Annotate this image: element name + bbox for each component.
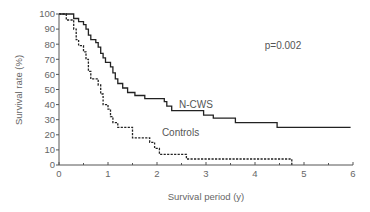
curve-n-cws <box>59 14 351 127</box>
survival-chart: 0102030405060708090100 0123456 Survival … <box>0 0 370 212</box>
plot-curves <box>59 14 351 165</box>
y-tick-label: 80 <box>44 39 55 50</box>
x-tick-label: 1 <box>105 168 110 179</box>
curve-controls <box>59 14 292 165</box>
y-axis-title: Survival rate (%) <box>13 55 24 125</box>
x-axis-title: Survival period (y) <box>168 191 245 202</box>
x-axis: 0123456 <box>56 162 355 179</box>
series-label-controls: Controls <box>162 127 199 138</box>
y-tick-label: 90 <box>44 23 55 34</box>
y-tick-label: 20 <box>44 129 55 140</box>
y-tick-label: 70 <box>44 54 55 65</box>
x-tick-label: 6 <box>350 168 355 179</box>
y-tick-label: 30 <box>44 114 55 125</box>
x-tick-label: 5 <box>301 168 306 179</box>
y-tick-label: 50 <box>44 84 55 95</box>
y-tick-label: 40 <box>44 99 55 110</box>
y-tick-label: 60 <box>44 69 55 80</box>
series-label-ncws: N-CWS <box>179 99 213 110</box>
y-tick-label: 10 <box>44 144 55 155</box>
y-tick-label: 100 <box>39 8 55 19</box>
y-axis: 0102030405060708090100 <box>39 8 59 170</box>
x-tick-label: 0 <box>56 168 61 179</box>
x-tick-label: 2 <box>154 168 159 179</box>
x-tick-label: 4 <box>252 168 257 179</box>
y-tick-label: 0 <box>50 159 55 170</box>
p-value-annotation: p=0.002 <box>265 40 302 51</box>
x-tick-label: 3 <box>203 168 208 179</box>
